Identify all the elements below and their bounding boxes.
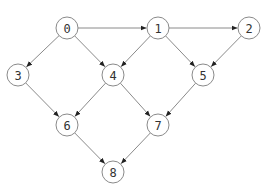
node-3[interactable]: 3	[7, 64, 29, 86]
edges-layer	[26, 28, 242, 164]
node-label: 1	[154, 22, 161, 36]
node-label: 5	[199, 69, 206, 83]
edge-4-to-6	[75, 83, 106, 116]
edge-0-to-4	[75, 36, 105, 67]
edge-7-to-8	[121, 133, 150, 164]
node-label: 0	[63, 22, 70, 36]
nodes-layer: 012345678	[7, 17, 260, 183]
node-7[interactable]: 7	[147, 114, 169, 136]
node-label: 6	[63, 119, 70, 133]
node-8[interactable]: 8	[102, 161, 124, 183]
node-4[interactable]: 4	[102, 64, 124, 86]
graph-canvas: 012345678	[0, 0, 267, 189]
node-6[interactable]: 6	[56, 114, 78, 136]
edge-5-to-7	[166, 83, 196, 116]
node-label: 7	[154, 119, 161, 133]
node-2[interactable]: 2	[238, 17, 260, 39]
edge-4-to-7	[120, 83, 150, 116]
edge-3-to-6	[26, 83, 59, 117]
edge-1-to-4	[121, 36, 150, 67]
edge-2-to-5	[211, 36, 241, 67]
node-label: 4	[109, 69, 116, 83]
node-label: 8	[109, 166, 116, 180]
edge-0-to-3	[26, 36, 59, 67]
node-5[interactable]: 5	[192, 64, 214, 86]
node-label: 3	[14, 69, 21, 83]
edge-6-to-8	[75, 133, 105, 164]
node-label: 2	[245, 22, 252, 36]
edge-1-to-5	[166, 36, 195, 67]
node-1[interactable]: 1	[147, 17, 169, 39]
node-0[interactable]: 0	[56, 17, 78, 39]
